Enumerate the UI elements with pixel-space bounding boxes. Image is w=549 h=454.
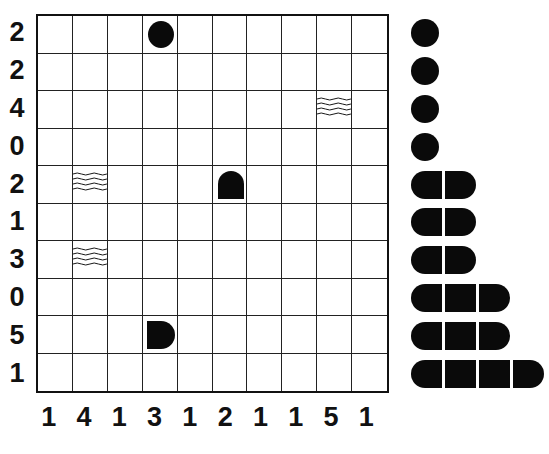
cell-r7-c9[interactable] xyxy=(352,279,387,317)
cell-r1-c9[interactable] xyxy=(352,54,387,92)
cell-r0-c2[interactable] xyxy=(108,16,143,54)
cell-r9-c8[interactable] xyxy=(317,354,352,392)
cell-r5-c3[interactable] xyxy=(143,204,178,242)
cell-r8-c5[interactable] xyxy=(213,316,248,354)
cell-r9-c9[interactable] xyxy=(352,354,387,392)
cell-r2-c5[interactable] xyxy=(213,91,248,129)
cell-r6-c2[interactable] xyxy=(108,241,143,279)
cell-r4-c5[interactable] xyxy=(213,166,248,204)
cell-r9-c1[interactable] xyxy=(73,354,108,392)
cell-r3-c2[interactable] xyxy=(108,129,143,167)
cell-r2-c4[interactable] xyxy=(178,91,213,129)
cell-r3-c6[interactable] xyxy=(247,129,282,167)
cell-r4-c2[interactable] xyxy=(108,166,143,204)
cell-r6-c5[interactable] xyxy=(213,241,248,279)
cell-r0-c7[interactable] xyxy=(282,16,317,54)
cell-r8-c3[interactable] xyxy=(143,316,178,354)
cell-r0-c0[interactable] xyxy=(38,16,73,54)
cell-r4-c6[interactable] xyxy=(247,166,282,204)
cell-r1-c6[interactable] xyxy=(247,54,282,92)
cell-r8-c0[interactable] xyxy=(38,316,73,354)
cell-r5-c9[interactable] xyxy=(352,204,387,242)
cell-r4-c1[interactable] xyxy=(73,166,108,204)
cell-r5-c8[interactable] xyxy=(317,204,352,242)
cell-r6-c8[interactable] xyxy=(317,241,352,279)
cell-r3-c3[interactable] xyxy=(143,129,178,167)
cell-r3-c0[interactable] xyxy=(38,129,73,167)
cell-r2-c8[interactable] xyxy=(317,91,352,129)
cell-r9-c3[interactable] xyxy=(143,354,178,392)
cell-r3-c7[interactable] xyxy=(282,129,317,167)
cell-r6-c1[interactable] xyxy=(73,241,108,279)
cell-r8-c1[interactable] xyxy=(73,316,108,354)
cell-r1-c0[interactable] xyxy=(38,54,73,92)
cell-r0-c6[interactable] xyxy=(247,16,282,54)
cell-r9-c7[interactable] xyxy=(282,354,317,392)
cell-r5-c5[interactable] xyxy=(213,204,248,242)
cell-r6-c4[interactable] xyxy=(178,241,213,279)
cell-r2-c9[interactable] xyxy=(352,91,387,129)
cell-r5-c6[interactable] xyxy=(247,204,282,242)
cell-r8-c2[interactable] xyxy=(108,316,143,354)
cell-r4-c9[interactable] xyxy=(352,166,387,204)
cell-r5-c0[interactable] xyxy=(38,204,73,242)
cell-r2-c7[interactable] xyxy=(282,91,317,129)
cell-r3-c4[interactable] xyxy=(178,129,213,167)
cell-r4-c3[interactable] xyxy=(143,166,178,204)
cell-r0-c3[interactable] xyxy=(143,16,178,54)
cell-r7-c8[interactable] xyxy=(317,279,352,317)
cell-r9-c4[interactable] xyxy=(178,354,213,392)
cell-r8-c8[interactable] xyxy=(317,316,352,354)
cell-r6-c7[interactable] xyxy=(282,241,317,279)
cell-r0-c4[interactable] xyxy=(178,16,213,54)
cell-r5-c2[interactable] xyxy=(108,204,143,242)
cell-r7-c0[interactable] xyxy=(38,279,73,317)
cell-r8-c9[interactable] xyxy=(352,316,387,354)
cell-r7-c7[interactable] xyxy=(282,279,317,317)
cell-r2-c3[interactable] xyxy=(143,91,178,129)
cell-r1-c7[interactable] xyxy=(282,54,317,92)
cell-r2-c6[interactable] xyxy=(247,91,282,129)
cell-r0-c8[interactable] xyxy=(317,16,352,54)
cell-r6-c6[interactable] xyxy=(247,241,282,279)
cell-r4-c4[interactable] xyxy=(178,166,213,204)
cell-r3-c5[interactable] xyxy=(213,129,248,167)
cell-r1-c5[interactable] xyxy=(213,54,248,92)
cell-r1-c4[interactable] xyxy=(178,54,213,92)
cell-r3-c1[interactable] xyxy=(73,129,108,167)
cell-r4-c7[interactable] xyxy=(282,166,317,204)
cell-r9-c6[interactable] xyxy=(247,354,282,392)
cell-r6-c9[interactable] xyxy=(352,241,387,279)
cell-r6-c3[interactable] xyxy=(143,241,178,279)
cell-r7-c2[interactable] xyxy=(108,279,143,317)
cell-r7-c1[interactable] xyxy=(73,279,108,317)
cell-r5-c4[interactable] xyxy=(178,204,213,242)
cell-r7-c4[interactable] xyxy=(178,279,213,317)
cell-r1-c8[interactable] xyxy=(317,54,352,92)
cell-r2-c2[interactable] xyxy=(108,91,143,129)
cell-r4-c8[interactable] xyxy=(317,166,352,204)
cell-r4-c0[interactable] xyxy=(38,166,73,204)
cell-r3-c9[interactable] xyxy=(352,129,387,167)
cell-r7-c5[interactable] xyxy=(213,279,248,317)
cell-r2-c1[interactable] xyxy=(73,91,108,129)
cell-r5-c1[interactable] xyxy=(73,204,108,242)
cell-r6-c0[interactable] xyxy=(38,241,73,279)
cell-r7-c3[interactable] xyxy=(143,279,178,317)
cell-r3-c8[interactable] xyxy=(317,129,352,167)
cell-r1-c1[interactable] xyxy=(73,54,108,92)
cell-r1-c3[interactable] xyxy=(143,54,178,92)
cell-r9-c0[interactable] xyxy=(38,354,73,392)
cell-r8-c6[interactable] xyxy=(247,316,282,354)
cell-r5-c7[interactable] xyxy=(282,204,317,242)
cell-r0-c1[interactable] xyxy=(73,16,108,54)
cell-r7-c6[interactable] xyxy=(247,279,282,317)
cell-r9-c5[interactable] xyxy=(213,354,248,392)
cell-r9-c2[interactable] xyxy=(108,354,143,392)
cell-r0-c5[interactable] xyxy=(213,16,248,54)
cell-r1-c2[interactable] xyxy=(108,54,143,92)
cell-r8-c7[interactable] xyxy=(282,316,317,354)
cell-r2-c0[interactable] xyxy=(38,91,73,129)
cell-r8-c4[interactable] xyxy=(178,316,213,354)
cell-r0-c9[interactable] xyxy=(352,16,387,54)
